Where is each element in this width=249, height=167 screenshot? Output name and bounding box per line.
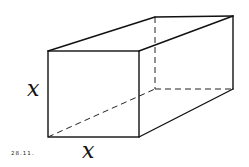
edge-top-right [139, 16, 233, 51]
edge-top-left [48, 17, 155, 51]
figure-caption: 28.11. [11, 150, 35, 156]
front-face [48, 51, 139, 137]
height-label: x [27, 76, 40, 101]
back-top-edge [155, 16, 233, 17]
edge-bottom-right [139, 89, 233, 137]
cuboid-diagram: x x 28.11. [0, 0, 249, 167]
width-label: x [82, 138, 95, 163]
